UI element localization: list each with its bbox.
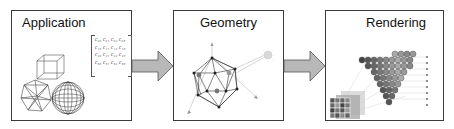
- pixel-grid-icon: [330, 91, 365, 119]
- geometry-stage: Geometry: [173, 10, 284, 121]
- rasterized-triangle-icon: [359, 51, 416, 105]
- icosahedron-icon: [194, 58, 237, 107]
- pixel-center-dots: [426, 56, 428, 106]
- application-stage: Application c₀₀ c₀₁ c₀₂ c₀₃ c₁₀ c₁₁ c₁₂ …: [11, 10, 132, 121]
- light-source-icon: [261, 48, 275, 62]
- cube-wireframe-icon: [37, 55, 64, 79]
- light-rays-icon: [234, 55, 265, 73]
- geometry-illustration: [174, 11, 285, 122]
- sphere-wireframe-icon: [52, 82, 84, 114]
- vertex-dots: [193, 57, 239, 109]
- icosahedron-wireframe-icon: [21, 80, 51, 111]
- arrow-application-to-geometry-icon: [132, 49, 174, 83]
- arrow-geometry-to-rendering-icon: [284, 49, 326, 83]
- wireframe-objects-illustration: [12, 11, 133, 122]
- rendering-stage: Rendering: [325, 10, 444, 121]
- rendering-illustration: [326, 11, 445, 122]
